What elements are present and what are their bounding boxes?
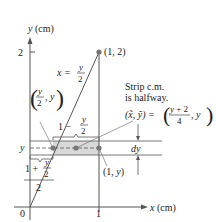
strip-length-den: 2	[81, 126, 86, 136]
left-point-den: 2	[37, 98, 42, 108]
left-point-tail: , y	[45, 91, 55, 102]
y-tick-label: 2	[18, 47, 23, 58]
annotation-line2: is halfway.	[125, 92, 168, 103]
dy-label: dy	[131, 143, 141, 154]
y-axis-label: y (cm)	[27, 23, 54, 35]
right-point-label: (1, y)	[103, 166, 124, 178]
midpoint-num-prefix: 1 +	[25, 163, 39, 174]
midpoint-inner-num: y	[44, 157, 49, 167]
centroid-diagram: y (cm) 2 0 1 x (cm) (1, 2) x = y 2 ( y 2…	[0, 0, 216, 222]
x-axis-arrow-icon	[141, 205, 148, 210]
centroid-tail: , y	[191, 109, 201, 120]
centroid-close-paren: )	[206, 102, 213, 127]
midpoint-inner-den: 2	[44, 169, 49, 179]
dy-arrow-down-icon	[136, 136, 140, 141]
point-centroid	[73, 145, 78, 150]
origin-label: 0	[20, 208, 25, 219]
y-axis-arrow-icon	[28, 37, 33, 44]
left-point-close-paren: )	[56, 85, 64, 111]
dy-arrow-up-icon	[136, 155, 140, 160]
centroid-lhs: (x̃, ỹ) =	[125, 109, 155, 121]
left-point-num: y	[37, 86, 42, 96]
point-top-vertex	[96, 49, 101, 54]
x-tick-label: 1	[96, 208, 101, 219]
strip-length-prefix: 1 −	[58, 121, 72, 132]
curve-equation-lhs: x =	[56, 67, 71, 78]
leader-left-point	[40, 122, 53, 148]
centroid-den: 4	[177, 116, 182, 126]
top-vertex-label: (1, 2)	[104, 46, 126, 58]
x-axis-label: x (cm)	[149, 202, 176, 214]
point-right	[96, 145, 101, 150]
curve-equation-den: 2	[78, 74, 83, 84]
strip-y-label: y	[19, 142, 25, 153]
midpoint-outer-den: 2	[36, 182, 41, 193]
curve-equation-num: y	[78, 62, 83, 72]
leader-right-point	[99, 148, 107, 166]
point-left	[50, 145, 55, 150]
annotation-line1: Strip c.m.	[125, 81, 164, 92]
midpoint-brace	[30, 156, 53, 162]
strip-length-num: y	[81, 114, 86, 124]
centroid-num: y + 2	[169, 104, 188, 114]
